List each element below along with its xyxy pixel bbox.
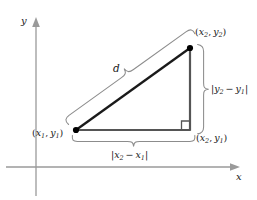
- label-x2-subscript: 2: [120, 154, 124, 162]
- vertical-leg-length-label: |y2 − y1|: [211, 84, 248, 95]
- x-axis-arrowhead: [230, 163, 240, 171]
- minus-sign: −: [126, 149, 134, 160]
- distance-formula-figure: y x (x2, y2) (x1, y1) (x2, y1) d |y2 − y…: [0, 0, 257, 200]
- brace-hypotenuse: [66, 30, 195, 125]
- paren-close: ): [223, 26, 227, 37]
- x-axis-label: x: [236, 172, 242, 182]
- vertex-dot-upper-right: [187, 45, 193, 51]
- y-axis-label: y: [21, 16, 27, 26]
- minus-sign: −: [226, 83, 234, 94]
- vertex-dot-lower-left: [73, 127, 79, 133]
- point-label-upper-right: (x2, y2): [195, 27, 226, 38]
- paren-close: ): [224, 132, 228, 143]
- paren-close: ): [60, 127, 64, 138]
- abs-bar-right: |: [145, 149, 148, 160]
- brace-horizontal-leg: [72, 135, 195, 146]
- abs-bar-right: |: [245, 83, 248, 94]
- point-label-lower-right: (x2, y1): [196, 133, 227, 144]
- right-angle-square-icon: [182, 121, 191, 130]
- comma: ,: [208, 26, 211, 37]
- horizontal-leg-length-label: |x2 − x1|: [111, 150, 148, 161]
- comma: ,: [209, 132, 212, 143]
- hypotenuse-length-label: d: [113, 63, 120, 74]
- triangle-hypotenuse: [76, 48, 190, 130]
- axes-group: [6, 17, 240, 196]
- y-axis-arrowhead: [32, 17, 40, 27]
- triangle-group: [76, 48, 191, 131]
- point-label-lower-left: (x1, y1): [32, 128, 63, 139]
- comma: ,: [45, 127, 48, 138]
- label-y2-subscript: 2: [220, 88, 224, 96]
- brace-vertical-leg: [198, 45, 209, 134]
